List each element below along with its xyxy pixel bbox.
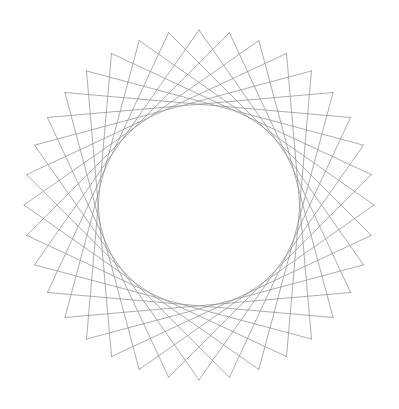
figure-canvas [0,0,399,409]
string-art-svg [0,0,399,409]
